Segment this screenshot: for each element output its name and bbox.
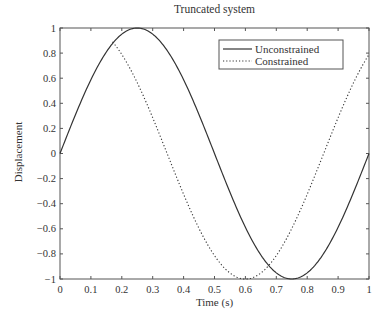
x-tick-label: 0.3: [146, 284, 159, 295]
y-tick-label: 0.4: [43, 98, 57, 109]
x-tick-label: 0.5: [208, 284, 221, 295]
chart-canvas: 00.10.20.30.40.50.60.70.80.91−1−0.8−0.6−…: [0, 0, 389, 324]
y-tick-label: 0.6: [43, 73, 56, 84]
chart-title: Truncated system: [60, 3, 369, 15]
y-tick-label: 0: [51, 148, 56, 159]
x-tick-label: 0.8: [301, 284, 314, 295]
x-tick-label: 0.6: [239, 284, 252, 295]
legend-label: Constrained: [255, 55, 309, 67]
series-constrained-line: [113, 42, 369, 279]
y-tick-label: 0.2: [43, 123, 56, 134]
y-tick-label: −1: [45, 274, 56, 285]
y-tick-label: 1: [51, 23, 56, 34]
y-tick-label: −0.2: [37, 173, 56, 184]
y-axis-label: Displacement: [12, 112, 24, 192]
x-tick-label: 0.9: [332, 284, 345, 295]
x-axis-label: Time (s): [60, 296, 369, 308]
x-tick-label: 0.1: [84, 284, 97, 295]
x-tick-label: 0.2: [115, 284, 128, 295]
y-tick-label: −0.6: [37, 223, 56, 234]
x-tick-label: 0.7: [270, 284, 283, 295]
legend-label: Unconstrained: [255, 43, 320, 55]
x-tick-label: 0.4: [177, 284, 191, 295]
y-tick-label: −0.4: [37, 198, 57, 209]
x-tick-label: 0: [57, 284, 62, 295]
y-tick-label: −0.8: [37, 248, 56, 259]
x-tick-label: 1: [366, 284, 371, 295]
y-tick-label: 0.8: [43, 48, 56, 59]
